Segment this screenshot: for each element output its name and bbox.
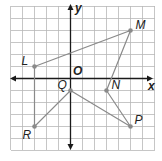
y-axis-arrow-up: [68, 4, 74, 10]
point-label-Q: Q: [58, 78, 67, 92]
point-L: [32, 64, 37, 69]
x-axis-label: x: [147, 79, 156, 93]
point-M: [128, 28, 133, 33]
origin-label: O: [73, 64, 83, 78]
y-axis-label: y: [74, 1, 83, 15]
point-label-R: R: [23, 128, 32, 142]
point-R: [32, 124, 37, 129]
points: LMNPQR: [22, 18, 146, 142]
point-label-P: P: [135, 113, 143, 127]
point-label-N: N: [112, 78, 121, 92]
point-P: [128, 124, 133, 129]
point-N: [104, 88, 109, 93]
point-Q: [68, 88, 73, 93]
point-label-L: L: [22, 54, 29, 68]
coordinate-plane: LMNPQR x y O: [0, 0, 162, 161]
y-axis-arrow-down: [68, 144, 74, 150]
point-label-M: M: [136, 18, 146, 32]
